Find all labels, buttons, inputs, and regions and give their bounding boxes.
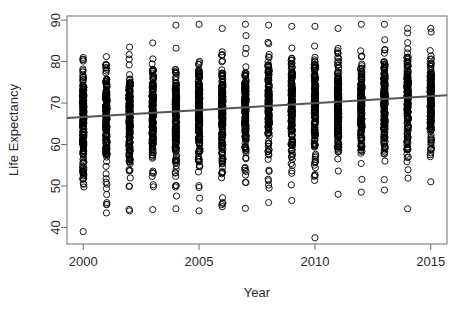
data-point-extreme xyxy=(335,191,341,197)
data-point-extreme xyxy=(381,187,387,193)
data-point xyxy=(127,175,133,181)
data-point-extreme xyxy=(150,206,156,212)
data-point xyxy=(382,37,388,43)
y-tick-label: 50 xyxy=(48,179,63,193)
data-point xyxy=(382,158,388,164)
data-point-extreme xyxy=(428,179,434,185)
data-point-extreme xyxy=(173,206,179,212)
data-point-extreme xyxy=(335,25,341,31)
data-point xyxy=(358,160,364,166)
data-point xyxy=(126,62,132,68)
x-axis: 2000200520102015 xyxy=(69,244,445,269)
data-point xyxy=(405,167,411,173)
data-point-extreme xyxy=(242,205,248,211)
data-point xyxy=(359,176,365,182)
data-point-extreme xyxy=(405,25,411,31)
data-point-extreme xyxy=(173,22,179,28)
data-points xyxy=(79,21,434,241)
data-point-extreme xyxy=(219,25,225,31)
data-point xyxy=(173,45,179,51)
data-point-extreme xyxy=(265,22,271,28)
x-tick-label: 2010 xyxy=(300,254,329,269)
data-point xyxy=(243,33,249,39)
data-point xyxy=(104,191,110,197)
data-point xyxy=(288,182,294,188)
data-point-extreme xyxy=(265,199,271,205)
x-tick-label: 2000 xyxy=(69,254,98,269)
plot-frame xyxy=(67,16,447,244)
data-point-extreme xyxy=(358,21,364,27)
data-point xyxy=(289,45,295,51)
data-point-extreme xyxy=(103,210,109,216)
x-tick-label: 2005 xyxy=(185,254,214,269)
data-point-extreme xyxy=(196,21,202,27)
data-point-extreme xyxy=(289,23,295,29)
data-point xyxy=(335,168,341,174)
data-point xyxy=(197,195,203,201)
y-tick-label: 40 xyxy=(48,220,63,234)
data-point xyxy=(405,46,411,52)
y-tick-label: 70 xyxy=(48,96,63,110)
data-point-extreme xyxy=(126,44,132,50)
data-point xyxy=(173,193,179,199)
y-tick-label: 80 xyxy=(48,54,63,68)
x-tick-label: 2015 xyxy=(416,254,445,269)
data-point-extreme xyxy=(312,235,318,241)
data-point-extreme xyxy=(312,23,318,29)
data-point xyxy=(381,176,387,182)
data-point xyxy=(405,175,411,181)
y-axis-title: Life Expectancy xyxy=(6,84,21,176)
y-tick-label: 90 xyxy=(48,13,63,27)
data-point xyxy=(335,156,341,162)
data-point-extreme xyxy=(428,25,434,31)
data-point xyxy=(103,171,109,177)
data-point xyxy=(311,43,317,49)
data-point-extreme xyxy=(289,197,295,203)
data-point xyxy=(126,183,132,189)
data-point-extreme xyxy=(103,54,109,60)
data-point-extreme xyxy=(358,189,364,195)
data-point xyxy=(126,56,132,62)
data-point-extreme xyxy=(150,40,156,46)
plot-canvas: 4050607080902000200520102015YearLife Exp… xyxy=(0,0,462,313)
y-axis: 405060708090 xyxy=(48,13,67,235)
data-point-extreme xyxy=(196,208,202,214)
data-point-extreme xyxy=(405,206,411,212)
data-point-extreme xyxy=(242,21,248,27)
x-axis-title: Year xyxy=(244,285,271,300)
data-point xyxy=(405,40,411,46)
data-point-extreme xyxy=(381,21,387,27)
data-point-extreme xyxy=(80,228,86,234)
y-tick-label: 60 xyxy=(48,137,63,151)
trend-line xyxy=(67,95,447,118)
scatter-plot-figure: 4050607080902000200520102015YearLife Exp… xyxy=(0,0,462,313)
